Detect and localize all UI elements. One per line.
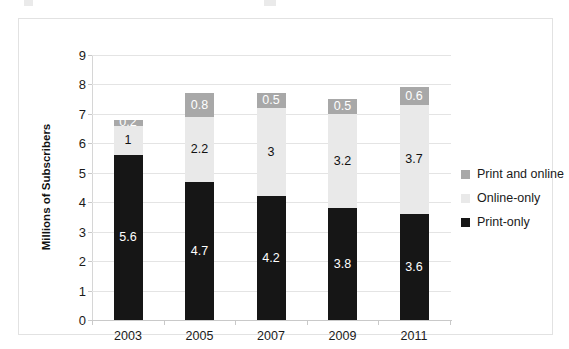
- legend-item[interactable]: Print and online: [461, 162, 564, 186]
- chart-legend: Print and onlineOnline-onlyPrint-only: [461, 162, 564, 234]
- bar-segment-print-and-online[interactable]: 0.2: [114, 120, 143, 126]
- bar-value-label: 3: [268, 146, 275, 159]
- legend-swatch-icon: [461, 218, 470, 227]
- y-axis-tick-label: 3: [19, 225, 86, 238]
- cropped-text-fragment-left: [24, 0, 33, 6]
- bar-stack[interactable]: 4.72.20.8: [185, 55, 214, 320]
- bar-value-label: 0.8: [191, 99, 208, 112]
- y-axis-tick-label: 4: [19, 196, 86, 209]
- legend-swatch-icon: [461, 170, 470, 179]
- bar-segment-print-and-online[interactable]: 0.5: [257, 93, 286, 108]
- x-axis-tick-label: 2009: [329, 329, 357, 343]
- bar-value-label: 5.6: [119, 231, 136, 244]
- legend-item[interactable]: Print-only: [461, 210, 564, 234]
- bar-stack[interactable]: 4.230.5: [257, 55, 286, 320]
- bar-value-label: 3.8: [334, 258, 351, 271]
- cropped-text-fragment-center: [264, 0, 276, 6]
- bar-value-label: 3.7: [405, 153, 422, 166]
- bar-segment-online-only[interactable]: 3: [257, 108, 286, 196]
- bar-value-label: 3.2: [334, 155, 351, 168]
- bar-value-label: 1: [125, 134, 132, 147]
- y-axis-tick-label: 1: [19, 284, 86, 297]
- bar-segment-online-only[interactable]: 1: [114, 126, 143, 155]
- x-axis-tick-label: 2011: [401, 329, 428, 343]
- legend-label: Print and online: [477, 167, 564, 181]
- bar-segment-print-only[interactable]: 4.7: [185, 182, 214, 320]
- bar-segment-print-and-online[interactable]: 0.6: [400, 87, 429, 105]
- bar-segment-print-only[interactable]: 3.6: [400, 214, 429, 320]
- bar-value-label: 0.6: [405, 90, 422, 103]
- y-axis-tick-label: 6: [19, 137, 86, 150]
- legend-swatch-icon: [461, 194, 470, 203]
- bar-stack[interactable]: 3.63.70.6: [400, 55, 429, 320]
- bar-value-label: 4.2: [262, 252, 279, 265]
- y-axis-tick-label: 8: [19, 78, 86, 91]
- bar-value-label: 4.7: [191, 245, 208, 258]
- bar-segment-online-only[interactable]: 3.7: [400, 105, 429, 214]
- legend-item[interactable]: Online-only: [461, 186, 564, 210]
- y-axis-tick-label: 5: [19, 166, 86, 179]
- bar-value-label: 0.5: [334, 100, 351, 113]
- chart-container: Millions of Subscribers 0123456789 20032…: [18, 18, 553, 335]
- bar-value-label: 3.6: [405, 261, 422, 274]
- bar-value-label: 0.2: [119, 116, 136, 129]
- x-axis-tick-label: 2005: [186, 329, 214, 343]
- bar-value-label: 0.5: [262, 94, 279, 107]
- bar-value-label: 2.2: [191, 143, 208, 156]
- legend-label: Online-only: [477, 191, 540, 205]
- y-axis-tick-label: 0: [19, 314, 86, 327]
- bar-segment-print-and-online[interactable]: 0.8: [185, 93, 214, 117]
- legend-label: Print-only: [477, 215, 530, 229]
- bar-segment-print-and-online[interactable]: 0.5: [328, 99, 357, 114]
- bar-segment-print-only[interactable]: 4.2: [257, 196, 286, 320]
- plot-area: 5.610.24.72.20.84.230.53.83.20.53.63.70.…: [92, 55, 451, 320]
- y-axis-tick-label: 9: [19, 49, 86, 62]
- bar-segment-print-only[interactable]: 5.6: [114, 155, 143, 320]
- bar-stack[interactable]: 5.610.2: [114, 55, 143, 320]
- x-axis-tick-label: 2007: [257, 329, 285, 343]
- x-axis-tick-label: 2003: [114, 329, 142, 343]
- y-axis-tick-label: 2: [19, 255, 86, 268]
- bar-segment-online-only[interactable]: 3.2: [328, 114, 357, 208]
- bar-segment-print-only[interactable]: 3.8: [328, 208, 357, 320]
- y-axis-tick-label: 7: [19, 107, 86, 120]
- gridline: [92, 320, 451, 321]
- bar-segment-online-only[interactable]: 2.2: [185, 117, 214, 182]
- bar-stack[interactable]: 3.83.20.5: [328, 55, 357, 320]
